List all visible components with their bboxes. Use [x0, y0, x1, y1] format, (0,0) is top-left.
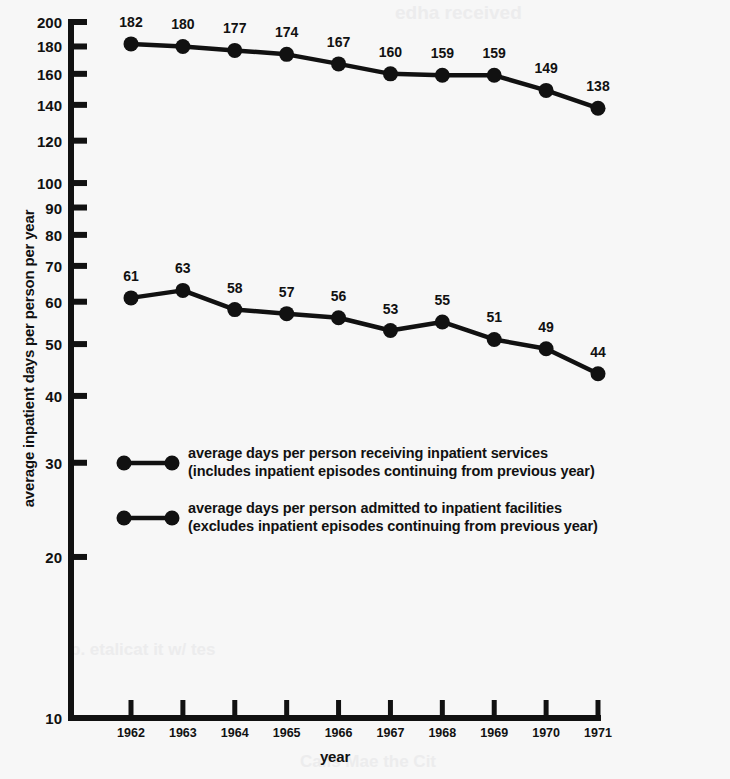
data-point-label: 57 — [265, 284, 309, 300]
legend-sample-marker — [117, 511, 132, 526]
data-point-label: 58 — [213, 280, 257, 296]
data-point-marker — [227, 43, 242, 58]
data-point-label: 53 — [368, 301, 412, 317]
chart-page: edha received p. etalicat it w/ tes Call… — [0, 0, 730, 779]
data-point-marker — [539, 341, 554, 356]
data-point-label: 138 — [576, 78, 620, 94]
y-tick-label: 20 — [22, 548, 62, 565]
x-tick-label: 1966 — [313, 726, 365, 740]
data-point-label: 159 — [472, 45, 516, 61]
legend-sample-marker — [165, 456, 180, 471]
legend-entry-1[interactable]: average days per person receiving inpati… — [188, 444, 595, 480]
y-tick-label: 50 — [22, 336, 62, 353]
data-point-marker — [175, 39, 190, 54]
y-tick-label: 160 — [22, 65, 62, 82]
data-point-label: 44 — [576, 344, 620, 360]
x-tick-label: 1962 — [105, 726, 157, 740]
data-point-label: 177 — [213, 20, 257, 36]
y-tick-label: 30 — [22, 454, 62, 471]
y-tick-label: 70 — [22, 257, 62, 274]
legend-entry-note: (includes inpatient episodes continuing … — [188, 462, 595, 480]
data-point-marker — [383, 66, 398, 81]
data-point-label: 159 — [420, 45, 464, 61]
y-tick-label: 60 — [22, 293, 62, 310]
data-point-marker — [124, 290, 139, 305]
data-point-marker — [591, 366, 606, 381]
y-tick-label: 180 — [22, 38, 62, 55]
data-point-marker — [331, 310, 346, 325]
data-point-label: 56 — [317, 288, 361, 304]
x-tick-label: 1967 — [364, 726, 416, 740]
data-point-marker — [383, 323, 398, 338]
legend-entry-title: average days per person admitted to inpa… — [188, 499, 598, 517]
data-point-label: 49 — [524, 319, 568, 335]
data-point-label: 180 — [161, 16, 205, 32]
y-tick-label: 200 — [22, 14, 62, 31]
data-point-marker — [175, 283, 190, 298]
legend-sample-marker — [165, 511, 180, 526]
x-tick-label: 1971 — [572, 726, 624, 740]
y-tick-label: 100 — [22, 175, 62, 192]
x-tick-label: 1965 — [261, 726, 313, 740]
axis-lines — [71, 22, 598, 718]
data-point-label: 51 — [472, 309, 516, 325]
data-point-marker — [279, 306, 294, 321]
y-tick-label: 120 — [22, 132, 62, 149]
data-point-marker — [124, 36, 139, 51]
data-point-marker — [487, 68, 502, 83]
data-point-marker — [435, 68, 450, 83]
legend-entry-title: average days per person receiving inpati… — [188, 444, 595, 462]
x-tick-label: 1970 — [520, 726, 572, 740]
data-point-marker — [539, 83, 554, 98]
data-point-label: 174 — [265, 24, 309, 40]
plot-canvas — [0, 0, 730, 779]
legend-entry-2[interactable]: average days per person admitted to inpa… — [188, 499, 598, 535]
x-tick-label: 1963 — [157, 726, 209, 740]
x-tick-label: 1964 — [209, 726, 261, 740]
legend-markers — [117, 456, 180, 526]
data-point-label: 61 — [109, 268, 153, 284]
y-tick-label: 90 — [22, 199, 62, 216]
data-point-label: 167 — [317, 34, 361, 50]
data-point-marker — [227, 302, 242, 317]
x-tick-label: 1968 — [416, 726, 468, 740]
data-point-marker — [487, 332, 502, 347]
data-point-label: 63 — [161, 260, 205, 276]
data-point-marker — [435, 314, 450, 329]
data-point-label: 149 — [524, 60, 568, 76]
data-point-marker — [279, 47, 294, 62]
y-tick-label: 10 — [22, 710, 62, 727]
x-tick-label: 1969 — [468, 726, 520, 740]
y-tick-label: 140 — [22, 96, 62, 113]
data-point-marker — [331, 56, 346, 71]
y-tick-label: 40 — [22, 387, 62, 404]
y-tick-label: 80 — [22, 226, 62, 243]
legend-sample-marker — [117, 456, 132, 471]
data-point-label: 55 — [420, 292, 464, 308]
data-point-label: 160 — [368, 44, 412, 60]
data-point-marker — [591, 101, 606, 116]
legend-entry-note: (excludes inpatient episodes continuing … — [188, 517, 598, 535]
data-point-label: 182 — [109, 14, 153, 30]
